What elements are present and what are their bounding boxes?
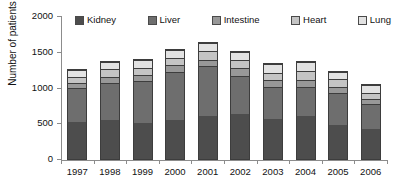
bar-stack[interactable]	[67, 69, 87, 160]
x-axis-tick	[387, 160, 388, 164]
bar-segment-lung[interactable]	[297, 62, 315, 71]
bar-stack[interactable]	[133, 59, 153, 160]
bar-segment-heart[interactable]	[199, 51, 217, 60]
bar-segment-lung[interactable]	[231, 52, 249, 60]
bar-stack[interactable]	[328, 71, 348, 160]
bar-stack[interactable]	[100, 61, 120, 160]
bar-segment-heart[interactable]	[134, 68, 152, 75]
bar-stack[interactable]	[361, 84, 381, 160]
bar-segment-heart[interactable]	[231, 60, 249, 68]
x-axis-label: 2003	[256, 166, 290, 177]
y-axis-tick-label: 1500	[32, 46, 53, 57]
bar-segment-intestine[interactable]	[297, 80, 315, 87]
y-axis-tick: 500	[57, 123, 62, 124]
x-axis-label: 1998	[93, 166, 127, 177]
bar-segment-lung[interactable]	[199, 43, 217, 51]
bar-segment-kidney[interactable]	[68, 122, 86, 159]
bar-segment-kidney[interactable]	[101, 120, 119, 159]
bar-segment-heart[interactable]	[362, 93, 380, 100]
bar-segment-liver[interactable]	[231, 76, 249, 114]
bar-segment-liver[interactable]	[264, 87, 282, 120]
bar-segment-heart[interactable]	[101, 69, 119, 76]
bar-segment-intestine[interactable]	[199, 60, 217, 67]
y-axis-tick: 1000	[57, 88, 62, 89]
y-axis-tick-label: 1000	[32, 82, 53, 93]
bar-segment-kidney[interactable]	[264, 119, 282, 159]
bar-segment-heart[interactable]	[297, 71, 315, 80]
x-axis-tick	[159, 160, 160, 164]
bar-segment-lung[interactable]	[362, 85, 380, 92]
bar-stack[interactable]	[230, 51, 250, 160]
bar-segment-lung[interactable]	[264, 64, 282, 72]
stacked-bar-chart: KidneyLiverIntestineHeartLung Number of …	[0, 0, 393, 192]
x-axis-tick	[61, 160, 62, 164]
bar-segment-liver[interactable]	[199, 66, 217, 116]
plot-area: 0500100015002000	[61, 17, 387, 160]
bar-segment-kidney[interactable]	[134, 123, 152, 159]
bar-segment-lung[interactable]	[134, 60, 152, 68]
x-axis-label: 2001	[191, 166, 225, 177]
bar-stack[interactable]	[165, 49, 185, 160]
x-axis-label: 2000	[158, 166, 192, 177]
y-axis-title: Number of patients	[7, 0, 18, 104]
bar-segment-heart[interactable]	[329, 79, 347, 86]
x-axis-label: 2002	[223, 166, 257, 177]
bar-stack[interactable]	[296, 61, 316, 160]
x-axis-label: 2005	[321, 166, 355, 177]
bar-segment-liver[interactable]	[101, 83, 119, 120]
x-axis-tick	[224, 160, 225, 164]
bar-segment-liver[interactable]	[362, 104, 380, 129]
bar-segment-heart[interactable]	[264, 73, 282, 81]
x-axis-tick	[322, 160, 323, 164]
bar-segment-liver[interactable]	[329, 93, 347, 125]
x-axis-label: 1999	[126, 166, 160, 177]
x-axis-label: 2004	[289, 166, 323, 177]
y-axis-tick: 1500	[57, 52, 62, 53]
bar-segment-liver[interactable]	[134, 81, 152, 123]
x-axis-tick	[354, 160, 355, 164]
bar-stack[interactable]	[263, 63, 283, 160]
y-axis-tick-label: 500	[37, 117, 53, 128]
bar-segment-kidney[interactable]	[166, 120, 184, 159]
bar-stack[interactable]	[198, 42, 218, 160]
x-axis-tick	[257, 160, 258, 164]
x-axis-tick	[94, 160, 95, 164]
x-axis-tick	[126, 160, 127, 164]
bar-segment-lung[interactable]	[166, 50, 184, 58]
x-axis-tick	[191, 160, 192, 164]
bar-segment-intestine[interactable]	[231, 68, 249, 75]
bar-segment-kidney[interactable]	[231, 114, 249, 159]
bar-segment-heart[interactable]	[166, 58, 184, 66]
bar-segment-lung[interactable]	[101, 62, 119, 70]
bar-segment-liver[interactable]	[166, 72, 184, 120]
bar-segment-lung[interactable]	[329, 72, 347, 79]
bar-segment-kidney[interactable]	[329, 125, 347, 159]
y-axis-tick: 2000	[57, 16, 62, 17]
x-axis-label: 2006	[354, 166, 388, 177]
bar-segment-kidney[interactable]	[297, 116, 315, 159]
x-axis-label: 1997	[60, 166, 94, 177]
bar-segment-liver[interactable]	[68, 88, 86, 122]
y-axis-tick-label: 0	[48, 153, 53, 164]
y-axis-tick-label: 2000	[32, 10, 53, 21]
bar-segment-liver[interactable]	[297, 87, 315, 116]
x-axis-tick	[289, 160, 290, 164]
bar-segment-kidney[interactable]	[199, 116, 217, 159]
bar-segment-kidney[interactable]	[362, 129, 380, 159]
